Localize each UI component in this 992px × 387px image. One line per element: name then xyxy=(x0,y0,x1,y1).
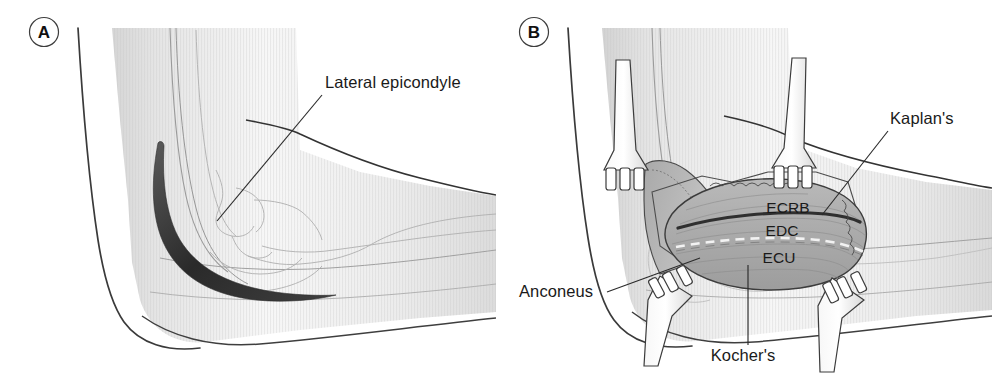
label-ecrb: ECRB xyxy=(766,199,809,216)
panel-b-illustration: B Kaplan's ECRB EDC ECU Anconeus Kocher'… xyxy=(496,0,992,387)
label-edc: EDC xyxy=(765,222,798,239)
panel-letter-a-text: A xyxy=(38,23,50,42)
label-kaplan: Kaplan's xyxy=(890,109,954,127)
panel-letter-a: A xyxy=(30,18,59,47)
label-kocher: Kocher's xyxy=(711,346,775,364)
label-ecu: ECU xyxy=(762,249,795,266)
panel-letter-b: B xyxy=(520,18,549,47)
panel-letter-b-text: B xyxy=(528,23,540,42)
label-lateral-epicondyle: Lateral epicondyle xyxy=(325,73,461,91)
label-anconeus: Anconeus xyxy=(519,282,593,300)
panel-a: A Lateral epicondyle xyxy=(0,0,496,387)
figure-root: A Lateral epicondyle xyxy=(0,0,992,387)
panel-b: B Kaplan's ECRB EDC ECU Anconeus Kocher'… xyxy=(496,0,992,387)
panel-a-illustration: A Lateral epicondyle xyxy=(0,0,496,387)
